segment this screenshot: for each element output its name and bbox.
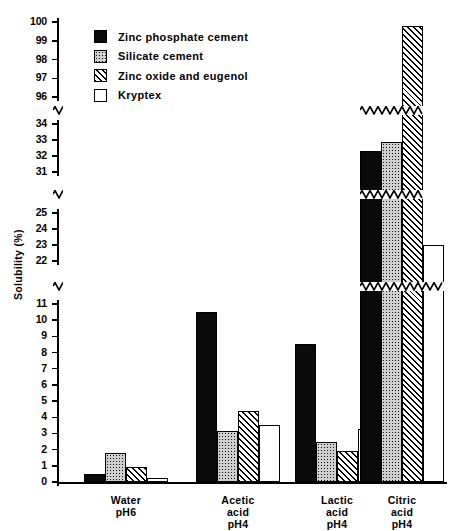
bar-water-ph6-series-0 — [84, 474, 105, 482]
legend-swatch-white-icon — [94, 89, 107, 102]
y-axis-tick-label: 32 — [21, 150, 47, 160]
legend-item-zinc-oxide-and-eugenol: Zinc oxide and eugenol — [94, 67, 248, 84]
y-axis-title: Solubility (%) — [12, 229, 24, 300]
axis-break-mark-middle — [360, 190, 423, 199]
group-label-line: Water — [81, 494, 171, 506]
legend-swatch-solid-black-icon — [94, 30, 107, 43]
x-axis-group-label: AceticacidpH4 — [193, 494, 283, 530]
group-label-line: acid — [193, 506, 283, 518]
bar-lactic-acid-ph4-series-2 — [337, 451, 358, 482]
y-axis-tick-label: 10 — [21, 314, 47, 324]
bar-citric-acid-ph4-series-3 — [423, 245, 444, 482]
y-axis-tick — [52, 40, 57, 42]
group-label-line: pH6 — [81, 506, 171, 518]
y-axis-tick-label: 6 — [21, 379, 47, 389]
y-axis-tick-label: 0 — [21, 476, 47, 486]
legend-label: Zinc phosphate cement — [118, 31, 248, 43]
bar-acetic-acid-ph4-series-2 — [238, 411, 259, 482]
axis-break-tick-middle — [53, 190, 63, 199]
x-axis-baseline — [57, 482, 447, 484]
y-axis-tick-label: 9 — [21, 330, 47, 340]
group-label-line: Acetic — [193, 494, 283, 506]
y-axis-tick — [52, 123, 57, 125]
y-axis-tick-label: 25 — [21, 207, 47, 217]
y-axis-tick-label: 5 — [21, 395, 47, 405]
bar-acetic-acid-ph4-series-1 — [217, 431, 238, 482]
y-axis-tick-label: 3 — [21, 427, 47, 437]
group-label-line: pH4 — [357, 518, 447, 530]
y-axis-tick-label: 33 — [21, 134, 47, 144]
y-axis-tick-label: 99 — [21, 35, 47, 45]
y-axis-tick-label: 100 — [21, 16, 47, 26]
bar-lactic-acid-ph4-series-0 — [295, 344, 316, 482]
legend-label: Zinc oxide and eugenol — [118, 70, 248, 82]
y-axis-tick-label: 31 — [21, 166, 47, 176]
chart-legend: Zinc phosphate cement Silicate cement Zi… — [94, 28, 248, 106]
y-axis-tick-label: 22 — [21, 255, 47, 265]
group-label-line: acid — [357, 506, 447, 518]
bar-acetic-acid-ph4-series-3 — [259, 425, 280, 482]
group-label-line: Citric — [357, 494, 447, 506]
y-axis-tick-label: 11 — [21, 298, 47, 308]
x-axis-group-label: CitricacidpH4 — [357, 494, 447, 530]
y-axis-tick — [52, 155, 57, 157]
y-axis-tick-label: 97 — [21, 72, 47, 82]
legend-swatch-diagonal-hatch-icon — [94, 69, 107, 82]
y-axis-line-segment-0 — [57, 18, 59, 101]
axis-break-mark-lower — [360, 282, 444, 291]
bar-water-ph6-series-2 — [126, 467, 147, 482]
y-axis-tick — [52, 171, 57, 173]
bar-water-ph6-series-3 — [147, 478, 168, 482]
y-axis-tick-label: 7 — [21, 363, 47, 373]
legend-label: Kryptex — [118, 89, 161, 101]
x-axis-group-label: WaterpH6 — [81, 494, 171, 518]
axis-break-tick-lower — [53, 282, 63, 291]
y-axis-tick-label: 1 — [21, 460, 47, 470]
group-label-line: pH4 — [193, 518, 283, 530]
y-axis-tick-label: 8 — [21, 347, 47, 357]
bar-acetic-acid-ph4-series-0 — [196, 312, 217, 482]
axis-break-tick-upper — [53, 106, 63, 115]
legend-item-silicate-cement: Silicate cement — [94, 48, 248, 65]
y-axis-line-segment-3 — [57, 300, 59, 486]
bar-citric-acid-ph4-series-0 — [360, 151, 381, 482]
y-axis-line-segment-2 — [57, 209, 59, 265]
legend-label: Silicate cement — [118, 50, 203, 62]
bar-lactic-acid-ph4-series-1 — [316, 442, 337, 482]
y-axis-tick-label: 23 — [21, 239, 47, 249]
y-axis-tick-label: 2 — [21, 444, 47, 454]
y-axis-tick — [52, 139, 57, 141]
legend-swatch-stippled-icon — [94, 50, 107, 63]
y-axis-tick — [52, 96, 57, 98]
bar-water-ph6-series-1 — [105, 453, 126, 482]
y-axis-tick-label: 24 — [21, 223, 47, 233]
y-axis-tick-label: 4 — [21, 411, 47, 421]
y-axis-line-segment-1 — [57, 120, 59, 176]
y-axis-tick — [52, 78, 57, 80]
y-axis-tick-label: 34 — [21, 118, 47, 128]
y-axis-tick — [52, 59, 57, 61]
y-axis-tick-label: 96 — [21, 91, 47, 101]
y-axis-tick-label: 98 — [21, 54, 47, 64]
legend-item-kryptex: Kryptex — [94, 87, 248, 104]
bar-citric-acid-ph4-series-2 — [402, 26, 423, 482]
y-axis-tick — [52, 21, 57, 23]
legend-item-zinc-phosphate-cement: Zinc phosphate cement — [94, 28, 248, 45]
axis-break-mark-upper — [360, 106, 423, 115]
